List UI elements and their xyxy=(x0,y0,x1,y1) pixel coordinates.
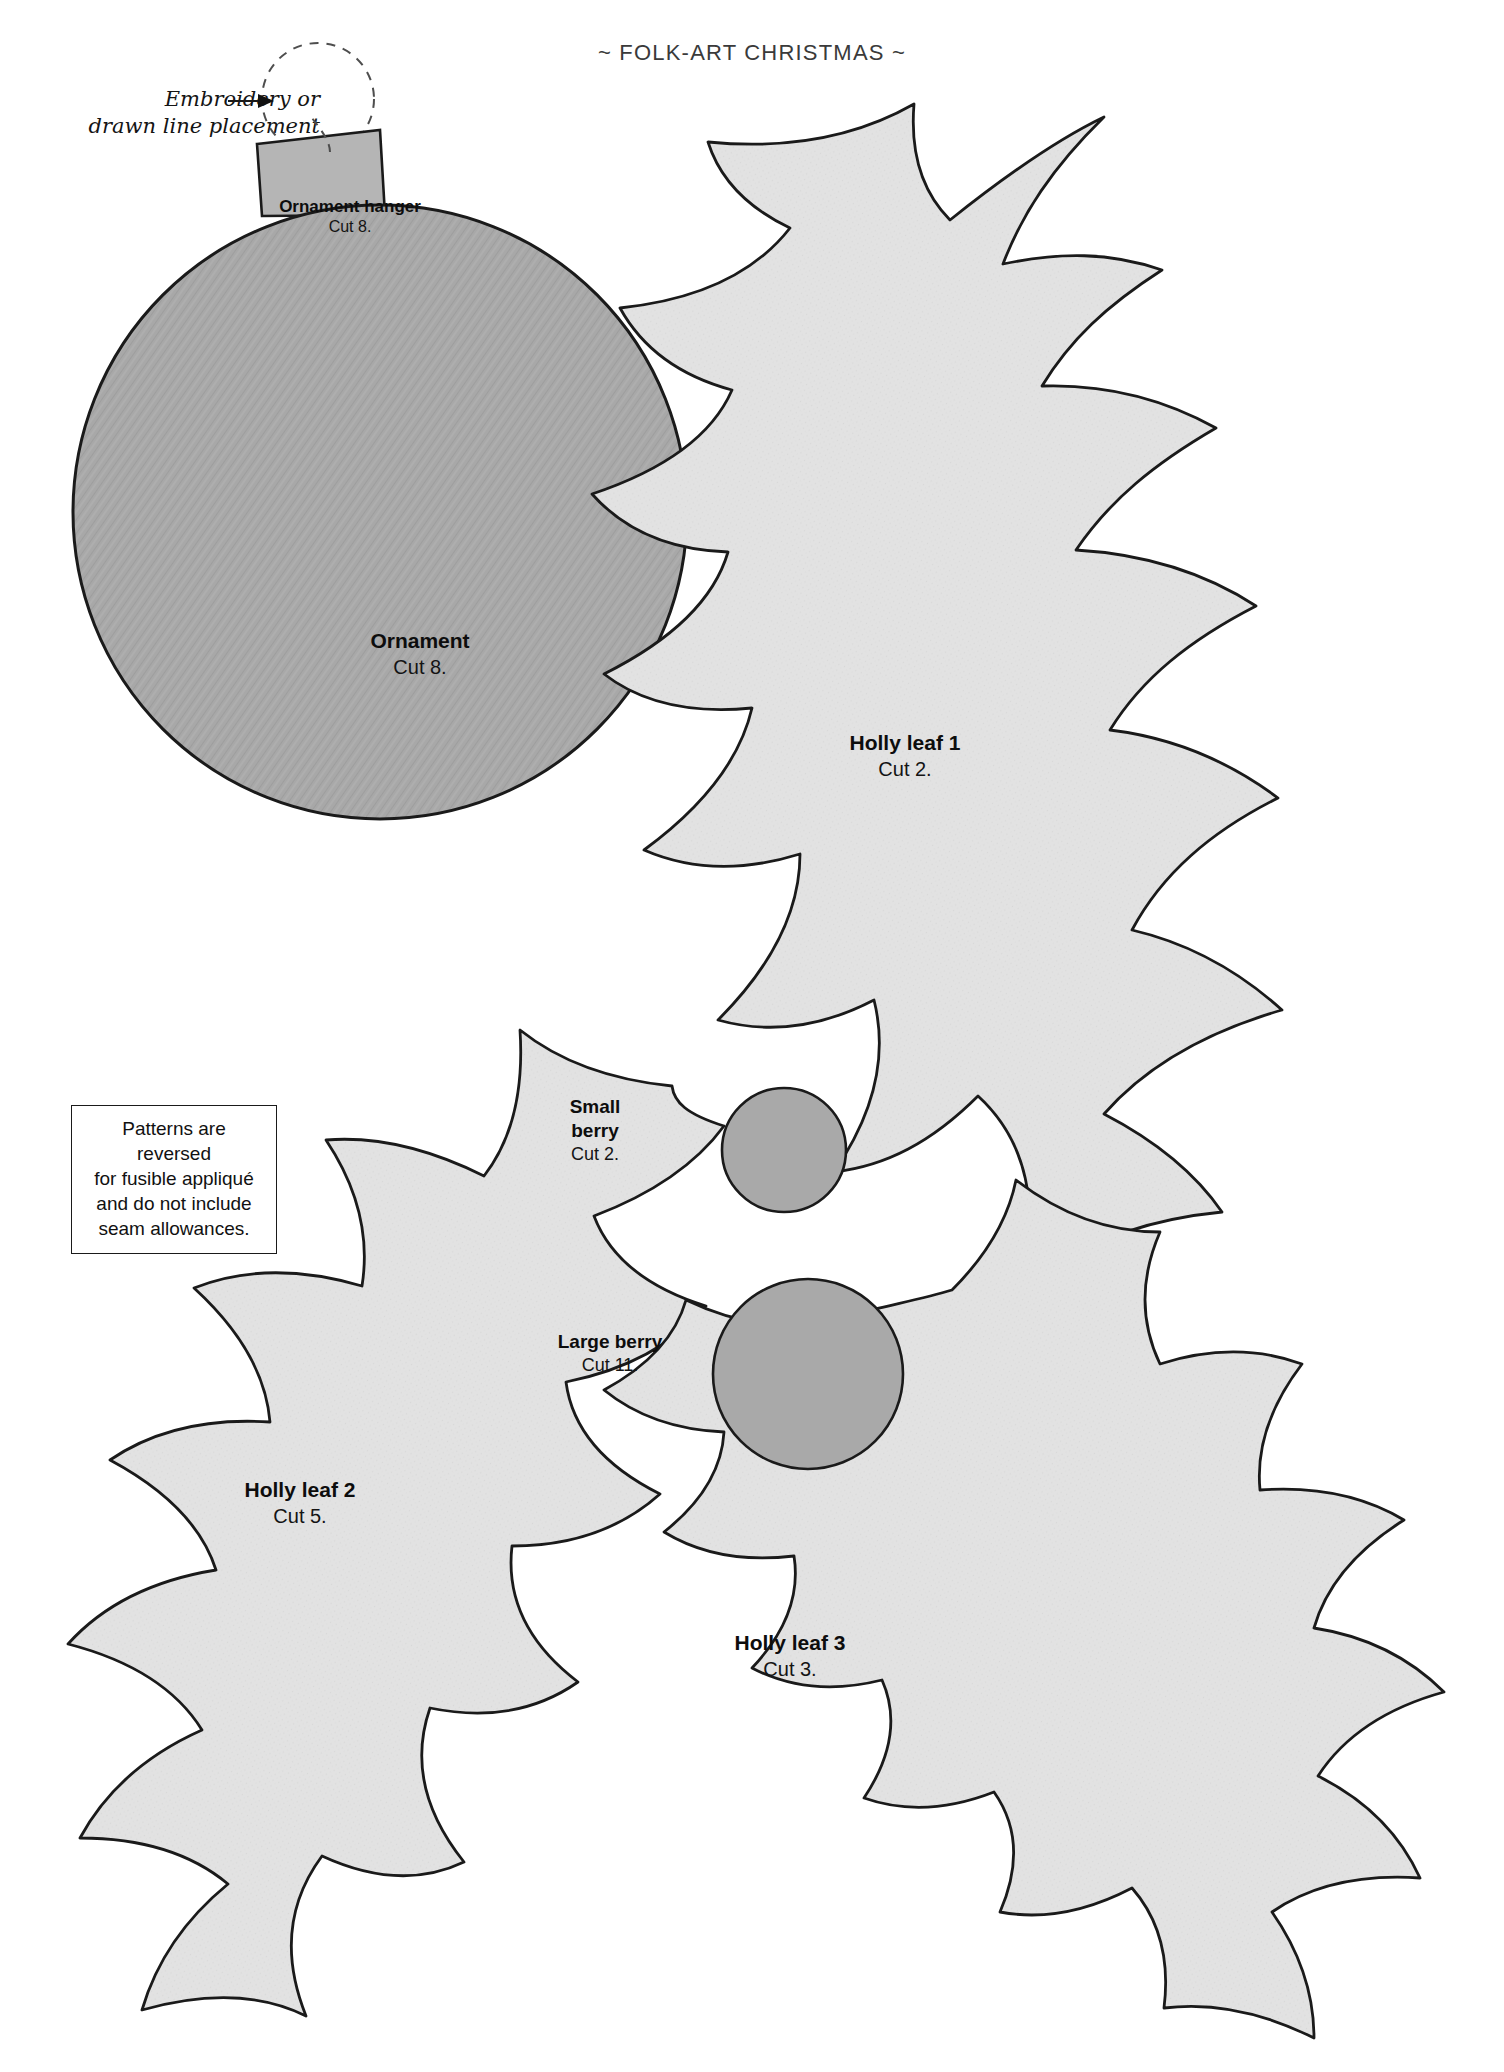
ornament-hanger-shape xyxy=(257,130,385,216)
holly-leaf-3-shape xyxy=(604,1180,1444,2038)
note-line-3: and do not include xyxy=(84,1191,264,1216)
note-line-4: seam allowances. xyxy=(84,1216,264,1241)
annotation-leader-arrow xyxy=(228,94,274,108)
small-berry-shape xyxy=(722,1088,846,1212)
pattern-artwork xyxy=(0,0,1504,2072)
ornament-shape xyxy=(73,205,687,819)
large-berry-shape xyxy=(713,1279,903,1469)
pattern-note-box: Patterns are reversed for fusible appliq… xyxy=(71,1105,277,1254)
note-line-1: Patterns are reversed xyxy=(84,1116,264,1166)
note-line-2: for fusible appliqué xyxy=(84,1166,264,1191)
